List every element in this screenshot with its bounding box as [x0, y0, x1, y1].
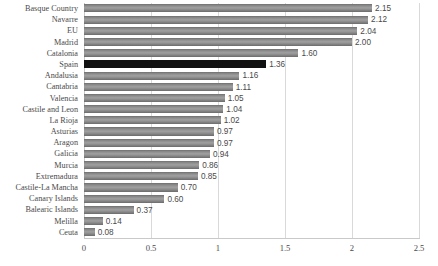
bar-row: Castile and Leon1.04	[0, 104, 438, 115]
bar-row: Navarre2.12	[0, 14, 438, 25]
bar-row: Spain1.36	[0, 59, 438, 70]
bar-value-label: 1.60	[301, 48, 317, 59]
bar-value-label: 1.16	[242, 70, 258, 81]
category-label: Valencia	[0, 93, 78, 104]
x-tick-label: 2.5	[399, 243, 438, 253]
bar-value-label: 0.85	[201, 171, 217, 182]
bar-value-label: 0.60	[167, 194, 183, 205]
category-label: Murcia	[0, 160, 78, 171]
bar-row: Catalonia1.60	[0, 48, 438, 59]
category-label: Extremadura	[0, 171, 78, 182]
bar	[84, 127, 214, 135]
bar	[84, 161, 199, 169]
bar	[84, 38, 352, 46]
bar-row: Canary Islands0.60	[0, 193, 438, 204]
category-label: EU	[0, 25, 78, 36]
bar-row: Extremadura0.85	[0, 171, 438, 182]
bar-value-label: 1.36	[269, 59, 285, 70]
x-tick-label: 1	[198, 243, 238, 253]
bar-value-label: 2.04	[360, 26, 376, 37]
bar	[84, 183, 178, 191]
category-label: Madrid	[0, 37, 78, 48]
bar	[84, 94, 225, 102]
category-label: Aragon	[0, 137, 78, 148]
bar-row: Castile-La Mancha0.70	[0, 182, 438, 193]
category-label: Asturias	[0, 126, 78, 137]
bar	[84, 49, 298, 57]
category-label: Balearic Islands	[0, 204, 78, 215]
bar-value-label: 1.11	[236, 82, 251, 93]
bar-value-label: 0.08	[98, 227, 114, 238]
bar	[84, 206, 134, 214]
x-tick-label: 0	[64, 243, 104, 253]
category-label: Canary Islands	[0, 193, 78, 204]
bar	[84, 217, 103, 225]
bar-value-label: 0.97	[217, 138, 233, 149]
bar-value-label: 0.14	[106, 216, 122, 227]
category-label: Basque Country	[0, 3, 78, 14]
x-tick-label: 0.5	[131, 243, 171, 253]
category-label: La Rioja	[0, 115, 78, 126]
category-label: Castile-La Mancha	[0, 182, 78, 193]
bar-value-label: 1.04	[226, 104, 242, 115]
bar	[84, 27, 357, 35]
bar	[84, 139, 214, 147]
bar-row: La Rioja1.02	[0, 115, 438, 126]
bar-row: Ceuta0.08	[0, 227, 438, 238]
category-label: Melilla	[0, 216, 78, 227]
category-label: Ceuta	[0, 227, 78, 238]
bar	[84, 83, 233, 91]
bar-value-label: 0.37	[137, 205, 153, 216]
bar-value-label: 0.86	[202, 160, 218, 171]
bar	[84, 228, 95, 236]
bar-row: EU2.04	[0, 25, 438, 36]
bar	[84, 116, 221, 124]
bar-value-label: 1.05	[228, 93, 244, 104]
x-axis-line	[84, 238, 420, 239]
x-axis-tick-labels: 00.511.522.5	[0, 243, 438, 259]
bar	[84, 60, 266, 68]
bar-value-label: 1.02	[224, 115, 240, 126]
category-label: Catalonia	[0, 48, 78, 59]
bar	[84, 105, 223, 113]
bar-row: Andalusia1.16	[0, 70, 438, 81]
bar	[84, 16, 368, 24]
bar	[84, 172, 198, 180]
bar-row: Aragon0.97	[0, 137, 438, 148]
category-label: Andalusia	[0, 70, 78, 81]
bar-row: Basque Country2.15	[0, 3, 438, 14]
bar	[84, 150, 210, 158]
x-tick-label: 1.5	[265, 243, 305, 253]
bar-value-label: 0.70	[181, 182, 197, 193]
bar-value-label: 0.97	[217, 126, 233, 137]
bar-chart: Basque Country2.15Navarre2.12EU2.04Madri…	[0, 0, 438, 266]
bar-row: Balearic Islands0.37	[0, 204, 438, 215]
bar-row: Asturias0.97	[0, 126, 438, 137]
x-tick-label: 2	[332, 243, 372, 253]
bar-row: Murcia0.86	[0, 160, 438, 171]
category-label: Cantabria	[0, 81, 78, 92]
bar	[84, 195, 164, 203]
bar-row: Madrid2.00	[0, 37, 438, 48]
bar-row: Cantabria1.11	[0, 81, 438, 92]
bar	[84, 4, 372, 12]
bar	[84, 72, 239, 80]
bar-row: Galicia0.94	[0, 148, 438, 159]
category-label: Navarre	[0, 14, 78, 25]
bar-value-label: 2.00	[355, 37, 371, 48]
bar-row: Valencia1.05	[0, 93, 438, 104]
bar-value-label: 2.15	[375, 3, 391, 14]
category-label: Galicia	[0, 148, 78, 159]
category-label: Castile and Leon	[0, 104, 78, 115]
bar-value-label: 2.12	[371, 14, 387, 25]
category-label: Spain	[0, 59, 78, 70]
bar-row: Melilla0.14	[0, 216, 438, 227]
bar-rows: Basque Country2.15Navarre2.12EU2.04Madri…	[0, 3, 438, 238]
bar-value-label: 0.94	[213, 149, 229, 160]
